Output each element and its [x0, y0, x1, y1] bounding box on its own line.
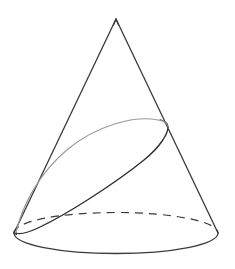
cone-figure: [0, 0, 235, 269]
cone-diagram-canvas: Cone with elliptical cross-section: [0, 0, 235, 269]
